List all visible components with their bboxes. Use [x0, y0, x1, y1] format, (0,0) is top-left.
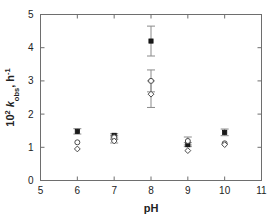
y-tick-label-4: 4 [28, 42, 34, 53]
y-axis-label: 102 kobs, h-1 [3, 68, 21, 126]
data-point-open-circle-ph8 [149, 78, 154, 83]
y-tick-label-1: 1 [28, 142, 34, 153]
x-tick-label-6: 6 [75, 185, 81, 196]
x-tick-label-9: 9 [185, 185, 191, 196]
y-axis-label-text: 102 kobs, h-1 [3, 68, 21, 126]
x-axis-label: pH [144, 202, 159, 214]
y-tick-label-2: 2 [28, 109, 34, 120]
data-point-filled-square-ph10 [223, 130, 227, 134]
x-tick-label-8: 8 [148, 185, 154, 196]
chart-figure: 567891011012345pH102 kobs, h-1 [0, 0, 278, 217]
x-tick-label-11: 11 [256, 185, 267, 196]
data-point-filled-square-ph6 [75, 129, 79, 133]
x-tick-label-7: 7 [111, 185, 117, 196]
x-tick-label-5: 5 [38, 185, 44, 196]
scatter-plot: 567891011012345pH102 kobs, h-1 [0, 0, 278, 217]
x-tick-label-10: 10 [219, 185, 231, 196]
y-tick-label-0: 0 [28, 175, 34, 186]
data-point-open-circle-ph9 [185, 138, 190, 143]
data-point-filled-square-ph8 [149, 39, 153, 43]
y-tick-label-3: 3 [28, 75, 34, 86]
y-tick-label-5: 5 [28, 9, 34, 20]
data-point-open-circle-ph6 [75, 140, 80, 145]
